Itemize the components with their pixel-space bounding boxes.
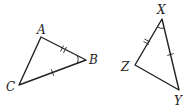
angle-arc-x: [158, 27, 164, 28]
triangle-abc: A B C: [6, 23, 98, 94]
congruent-triangles-diagram: A B C X Y Z: [0, 0, 192, 110]
triangle-abc-outline: [19, 37, 86, 85]
vertex-label-x: X: [156, 3, 166, 17]
vertex-label-b: B: [88, 53, 98, 67]
vertex-label-y: Y: [174, 94, 183, 108]
angle-arc-b: [77, 56, 78, 64]
triangle-xyz-outline: [135, 19, 179, 90]
vertex-label-c: C: [6, 80, 15, 94]
triangle-xyz: X Y Z: [120, 3, 183, 108]
vertex-label-a: A: [36, 23, 46, 37]
vertex-label-z: Z: [120, 60, 130, 74]
